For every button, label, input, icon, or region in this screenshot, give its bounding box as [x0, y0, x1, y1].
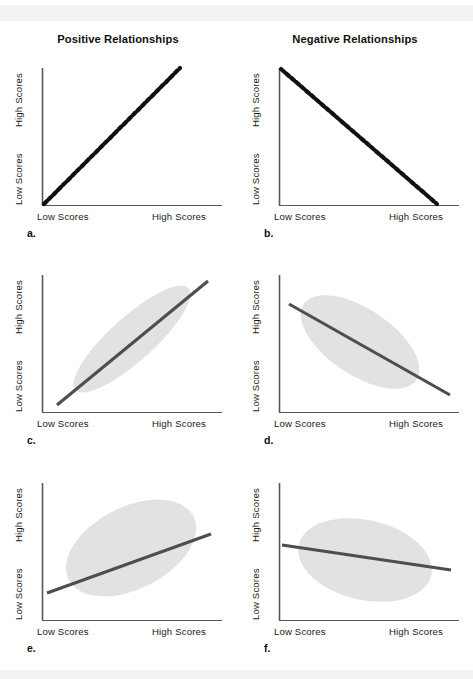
panel-e-y-low-label: Low Scores	[13, 568, 24, 620]
panel-e: High Scores Low Scores Low Scores High S…	[0, 470, 236, 670]
panel-d-x-low-label: Low Scores	[274, 418, 326, 429]
panel-d-y-high-label: High Scores	[250, 280, 261, 334]
plot-f	[237, 470, 473, 670]
panel-c-x-high-label: High Scores	[152, 418, 206, 429]
panel-f-x-low-label: Low Scores	[274, 626, 326, 637]
panel-a: High Scores Low Scores Low Scores High S…	[0, 55, 236, 255]
panel-b-x-high-label: High Scores	[389, 211, 443, 222]
scan-band-bottom	[0, 670, 473, 679]
panel-e-x-high-label: High Scores	[152, 626, 206, 637]
plot-d	[237, 262, 473, 462]
heading-negative-relationships: Negative Relationships	[237, 33, 473, 45]
panel-c-y-high-label: High Scores	[13, 280, 24, 334]
plot-c-svg	[0, 262, 236, 462]
plot-e-svg	[0, 470, 236, 670]
panel-c-y-low-label: Low Scores	[13, 360, 24, 412]
panel-e-y-high-label: High Scores	[13, 488, 24, 542]
panel-e-x-low-label: Low Scores	[37, 626, 89, 637]
scan-band-top	[0, 5, 473, 21]
figure-page: Positive Relationships Negative Relation…	[0, 0, 473, 679]
panel-c: High Scores Low Scores Low Scores High S…	[0, 262, 236, 462]
panel-b-y-low-label: Low Scores	[250, 153, 261, 205]
panel-b: High Scores Low Scores Low Scores High S…	[237, 55, 473, 255]
plot-d-svg	[237, 262, 473, 462]
panel-b-letter: b.	[264, 227, 273, 239]
panel-e-letter: e.	[27, 642, 36, 654]
plot-a-svg	[0, 55, 236, 255]
column-headings: Positive Relationships Negative Relation…	[0, 33, 473, 51]
panel-a-y-high-label: High Scores	[13, 73, 24, 127]
panel-a-x-low-label: Low Scores	[37, 211, 89, 222]
panel-a-letter: a.	[27, 227, 36, 239]
panel-f-y-high-label: High Scores	[250, 488, 261, 542]
panel-f-y-low-label: Low Scores	[250, 568, 261, 620]
trend-line-c	[57, 281, 208, 405]
scatter-cloud-f	[290, 506, 441, 615]
scatter-cloud-e	[50, 480, 212, 617]
plot-b-svg	[237, 55, 473, 255]
panel-d-letter: d.	[264, 434, 273, 446]
panel-c-letter: c.	[27, 434, 36, 446]
panel-b-y-high-label: High Scores	[250, 73, 261, 127]
panel-f: High Scores Low Scores Low Scores High S…	[237, 470, 473, 670]
panel-a-x-high-label: High Scores	[152, 211, 206, 222]
plot-a	[0, 55, 236, 255]
panel-a-y-low-label: Low Scores	[13, 153, 24, 205]
plot-b	[237, 55, 473, 255]
plot-f-svg	[237, 470, 473, 670]
panel-d-y-low-label: Low Scores	[250, 360, 261, 412]
axes-a	[42, 68, 222, 206]
panel-d-x-high-label: High Scores	[389, 418, 443, 429]
panel-f-x-high-label: High Scores	[389, 626, 443, 637]
plot-e	[0, 470, 236, 670]
heading-positive-relationships: Positive Relationships	[0, 33, 236, 45]
plot-c	[0, 262, 236, 462]
panel-b-x-low-label: Low Scores	[274, 211, 326, 222]
panel-f-letter: f.	[264, 642, 270, 654]
panel-c-x-low-label: Low Scores	[37, 418, 89, 429]
trend-line-b	[281, 69, 437, 204]
scatter-cloud-d	[285, 277, 435, 408]
trend-line-a	[44, 68, 180, 204]
panel-d: High Scores Low Scores Low Scores High S…	[237, 262, 473, 462]
